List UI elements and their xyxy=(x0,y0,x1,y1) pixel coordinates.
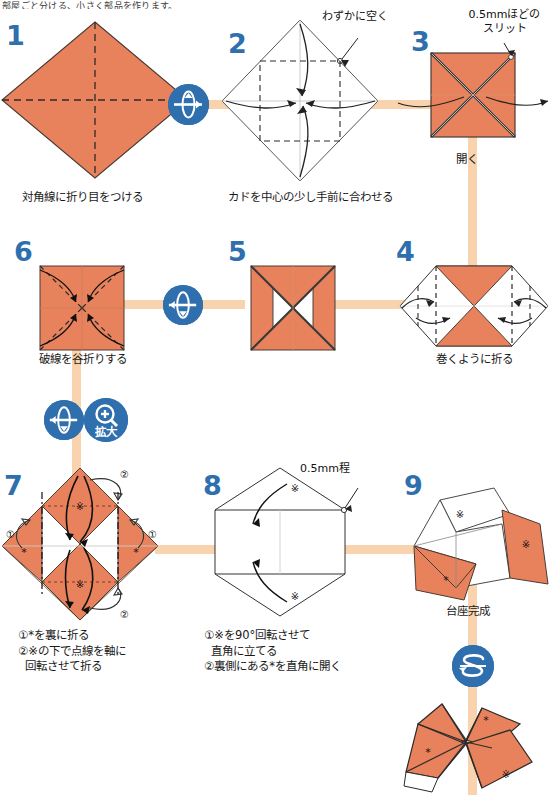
badge-flip-over-6-7 xyxy=(44,400,84,440)
step-4-number: 4 xyxy=(396,238,415,265)
step-7-mark-1-right: ① xyxy=(148,529,157,540)
step-6-diagram xyxy=(34,262,130,354)
mark-kome-top: ※ xyxy=(76,501,84,512)
flip-over-icon xyxy=(163,285,203,325)
step-3-caption: 開く xyxy=(432,152,502,168)
mark-star-left: * xyxy=(21,546,27,559)
magnify-label: 拡大 xyxy=(95,425,118,439)
step-4-diagram xyxy=(398,262,550,354)
mark-kome-top: ※ xyxy=(291,483,299,494)
badge-rotate-9-10 xyxy=(452,645,494,687)
step-3-annot-line2: スリット xyxy=(483,22,527,35)
flip-over-icon xyxy=(168,84,209,125)
mark-star: * xyxy=(443,574,449,587)
step-6-number: 6 xyxy=(14,238,33,265)
mark-kome-bottom: ※ xyxy=(76,579,84,590)
badge-magnify-6-7: 拡大 xyxy=(84,398,128,442)
final-mark-star-left: * xyxy=(425,746,431,759)
step-5-number: 5 xyxy=(228,238,247,265)
magnify-icon: 拡大 xyxy=(84,398,128,442)
mark-kome-orange: ※ xyxy=(522,539,530,550)
step-5-diagram xyxy=(245,262,341,354)
origami-instruction-sheet: 部屋ごと分ける、小さく部品を作ります。 1 対角線に折り目をつける 2 わずかに… xyxy=(0,0,550,802)
step-7-mark-2-top: ② xyxy=(120,469,129,480)
step-4-caption: 巻くように折る xyxy=(414,352,534,368)
step-9-diagram: ※ ※ * xyxy=(398,480,550,605)
page-top-note: 部屋ごと分ける、小さく部品を作ります。 xyxy=(2,0,302,9)
step-3-annotation-slit: 0.5mmほどのスリット xyxy=(452,8,550,37)
step-7-mark-2-bottom: ② xyxy=(120,609,129,620)
step-7-diagram: ※ ※ * * ① ① ② ② xyxy=(0,462,192,622)
mark-kome-white: ※ xyxy=(456,509,464,520)
rotate-icon xyxy=(452,645,494,687)
step-8-diagram: ※ ※ xyxy=(225,462,385,622)
step-8-caption: ①※を90°回転させて 直角に立てる ②裏側にある*を直角に開く xyxy=(204,628,341,675)
final-mark-kome: ※ xyxy=(502,769,510,780)
badge-flip-over-5-6 xyxy=(163,285,203,325)
flip-over-icon xyxy=(44,400,84,440)
mark-kome-bottom: ※ xyxy=(291,591,299,602)
step-7-mark-1-left: ① xyxy=(6,529,15,540)
step-2-caption: カドを中心の少し手前に合わせる xyxy=(228,190,393,206)
step-2-diagram xyxy=(218,14,393,184)
step-8-number: 8 xyxy=(203,472,222,499)
badge-flip-over-1-2 xyxy=(168,84,209,125)
step-1-caption: 対角線に折り目をつける xyxy=(22,190,143,206)
step-3-annot-line1: 0.5mmほどの xyxy=(469,8,541,21)
step-7-caption: ①*を裏に折る ②※の下で点線を軸に 回転させて折る xyxy=(18,628,126,675)
step-9-caption: 台座完成 xyxy=(430,604,505,620)
final-mark-star-top: * xyxy=(483,714,489,727)
step-6-caption: 破線を谷折りする xyxy=(20,352,145,368)
final-model-diagram: * * ※ xyxy=(370,690,550,802)
step-3-diagram xyxy=(398,45,550,150)
